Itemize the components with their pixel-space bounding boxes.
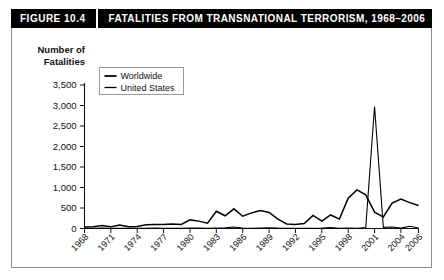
x-tick-label: 1968	[69, 232, 90, 253]
figure-container: FIGURE 10.4 FATALITIES FROM TRANSNATIONA…	[0, 0, 444, 280]
x-tick-label: 1986	[227, 232, 248, 253]
y-tick-label: 3,500	[53, 79, 77, 90]
x-tick-label: 1983	[201, 232, 222, 253]
x-tick-label: 1995	[306, 232, 327, 253]
x-tick-label: 1998	[333, 232, 354, 253]
y-tick-label: 0	[71, 223, 76, 234]
chart-series	[85, 106, 419, 228]
y-axis-tick-labels: 05001,0001,5002,0002,5003,0003,500	[53, 79, 77, 234]
y-tick-label: 1,500	[53, 161, 77, 172]
x-tick-label: 1992	[280, 232, 301, 253]
chart-axes	[85, 83, 419, 229]
x-tick-label: 1971	[96, 232, 117, 253]
x-tick-label: 2001	[359, 232, 380, 253]
y-tick-label: 2,500	[53, 120, 77, 131]
x-tick-label: 2006	[403, 232, 424, 253]
legend-label-0: Worldwide	[121, 71, 163, 81]
line-chart: 05001,0001,5002,0002,5003,0003,500 19681…	[0, 0, 444, 280]
y-axis-tick-marks	[80, 85, 85, 229]
x-tick-label: 1974	[122, 232, 143, 253]
y-tick-label: 500	[61, 202, 77, 213]
x-axis-tick-labels: 1968197119741977198019831986198919921995…	[69, 232, 424, 253]
chart-legend: WorldwideUnited States	[100, 68, 184, 95]
y-tick-label: 2,000	[53, 141, 77, 152]
legend-label-1: United States	[121, 83, 176, 93]
y-tick-label: 3,000	[53, 100, 77, 111]
series-line-united-states	[85, 106, 419, 228]
x-tick-label: 1977	[148, 232, 169, 253]
x-tick-label: 1989	[254, 232, 275, 253]
x-tick-label: 1980	[175, 232, 196, 253]
y-tick-label: 1,000	[53, 182, 77, 193]
x-tick-label: 2004	[386, 232, 407, 253]
